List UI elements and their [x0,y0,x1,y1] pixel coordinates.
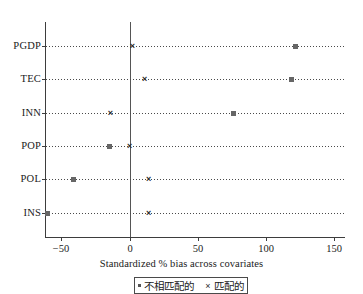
legend-entry-matched: × 匹配的 [205,280,244,292]
legend-entry-unmatched: 不相匹配的 [138,280,194,292]
chart-figure: PGDPTECINNPOPPOLINS −50050100150 Standar… [0,0,363,294]
data-point-pol-matched [146,176,152,182]
x-tick-label-150: 150 [314,243,354,254]
gridline-ins [46,213,345,214]
legend-label-matched: 匹配的 [214,280,244,292]
y-tick-label-pol: POL [21,174,41,185]
y-tick-mark-inn [42,113,45,114]
legend-label-unmatched: 不相匹配的 [144,280,194,292]
data-point-inn-matched [107,110,113,116]
data-point-pol-unmatched [71,177,76,182]
gridline-inn [46,113,345,114]
y-tick-mark-tec [42,79,45,80]
gridline-pol [46,179,345,180]
y-tick-mark-pol [42,179,45,180]
cross-marker-icon: × [205,282,211,290]
x-axis-label: Standardized % bias across covariates [0,258,363,269]
x-tick-label--50: −50 [41,243,81,254]
y-tick-mark-pop [42,146,45,147]
zero-reference-line [130,22,131,237]
x-tick-mark-100 [266,237,267,241]
gridline-pop [46,146,345,147]
data-point-ins-unmatched [45,211,50,216]
gridline-pgdp [46,46,345,47]
x-tick-label-50: 50 [178,243,218,254]
data-point-tec-unmatched [289,77,294,82]
x-tick-mark-150 [334,237,335,241]
x-tick-mark--50 [61,237,62,241]
y-tick-mark-pgdp [42,46,45,47]
data-point-tec-matched [142,76,148,82]
data-point-pgdp-matched [129,43,135,49]
chart-legend: 不相匹配的 × 匹配的 [134,277,248,294]
x-tick-mark-50 [198,237,199,241]
data-point-ins-matched [146,210,152,216]
y-tick-label-pgdp: PGDP [13,41,41,52]
y-axis-spine [45,22,46,237]
data-point-inn-unmatched [231,111,236,116]
data-point-pop-matched [127,143,133,149]
x-tick-label-100: 100 [246,243,286,254]
data-point-pgdp-unmatched [293,44,298,49]
data-point-pop-unmatched [107,144,112,149]
x-tick-mark-0 [130,237,131,241]
x-tick-label-0: 0 [110,243,150,254]
y-tick-label-inn: INN [22,108,41,119]
y-tick-label-tec: TEC [21,74,41,85]
y-tick-label-ins: INS [23,208,41,219]
gridline-tec [46,79,345,80]
dot-marker-icon [138,284,141,287]
y-tick-label-pop: POP [21,141,41,152]
x-axis-spine [45,237,345,238]
